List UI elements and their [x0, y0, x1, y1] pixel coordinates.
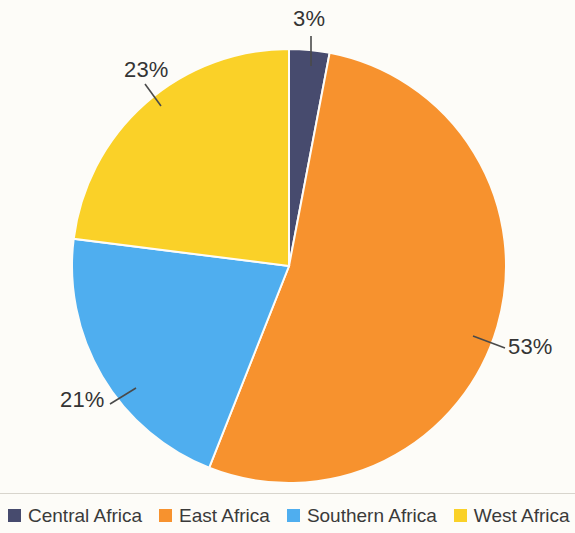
legend-item-central-africa[interactable]: Central Africa: [8, 506, 142, 525]
legend-item-label: Central Africa: [28, 506, 142, 525]
chart-plot-area: 3% 53% 21% 23%: [0, 0, 575, 492]
slice-label-east-africa: 53%: [508, 336, 553, 358]
legend-swatch-icon: [287, 509, 300, 522]
legend-swatch-icon: [8, 509, 21, 522]
slice-label-west-africa: 23%: [124, 59, 169, 81]
pie-chart-figure: 3% 53% 21% 23% Central AfricaEast Africa…: [0, 0, 575, 533]
legend-item-label: Southern Africa: [307, 506, 437, 525]
legend-item-west-africa[interactable]: West Africa: [454, 506, 570, 525]
pie-svg: [0, 0, 575, 492]
legend-item-label: East Africa: [179, 506, 270, 525]
legend-item-east-africa[interactable]: East Africa: [159, 506, 270, 525]
legend-swatch-icon: [159, 509, 172, 522]
legend-item-southern-africa[interactable]: Southern Africa: [287, 506, 437, 525]
pie-slice-west-africa[interactable]: [74, 49, 289, 266]
pie-slice-group: [72, 49, 506, 483]
slice-label-southern-africa: 21%: [60, 389, 105, 411]
legend-item-label: West Africa: [474, 506, 570, 525]
slice-label-central-africa: 3%: [293, 8, 325, 30]
legend-swatch-icon: [454, 509, 467, 522]
legend-divider: [0, 493, 575, 494]
chart-legend: Central AfricaEast AfricaSouthern Africa…: [0, 497, 575, 533]
